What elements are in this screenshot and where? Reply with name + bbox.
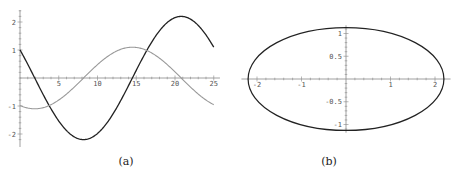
y-tick-label: -2 (8, 131, 16, 139)
x-tick-label: 25 (210, 80, 218, 88)
y-tick-label: -0.5 (325, 98, 342, 106)
x-tick-label: -2 (253, 81, 261, 89)
figure-canvas: 51015202521-1-2 -2-11210.5-0.5-1 (0, 0, 462, 178)
y-tick-label: 1 (338, 30, 342, 38)
x-tick-label: 5 (57, 80, 61, 88)
y-tick-label: -1 (8, 103, 16, 111)
plot-b-axes: -2-11210.5-0.5-1 (241, 25, 450, 132)
plot-a: 51015202521-1-2 (8, 10, 220, 147)
y-tick-label: 0.5 (329, 53, 342, 61)
y-tick-label: 1 (12, 47, 16, 55)
x-tick-label: 15 (132, 80, 140, 88)
x-tick-label: 2 (433, 81, 437, 89)
plot-a-axes: 51015202521-1-2 (8, 10, 220, 147)
y-tick-label: 2 (12, 19, 16, 27)
x-tick-label: 10 (93, 80, 101, 88)
plot-b: -2-11210.5-0.5-1 (241, 25, 450, 132)
caption-b: (b) (321, 155, 337, 168)
x-tick-label: 1 (388, 81, 392, 89)
caption-a: (a) (118, 155, 133, 168)
y-tick-label: -1 (334, 121, 342, 129)
x-tick-label: -1 (297, 81, 305, 89)
x-tick-label: 20 (171, 80, 179, 88)
